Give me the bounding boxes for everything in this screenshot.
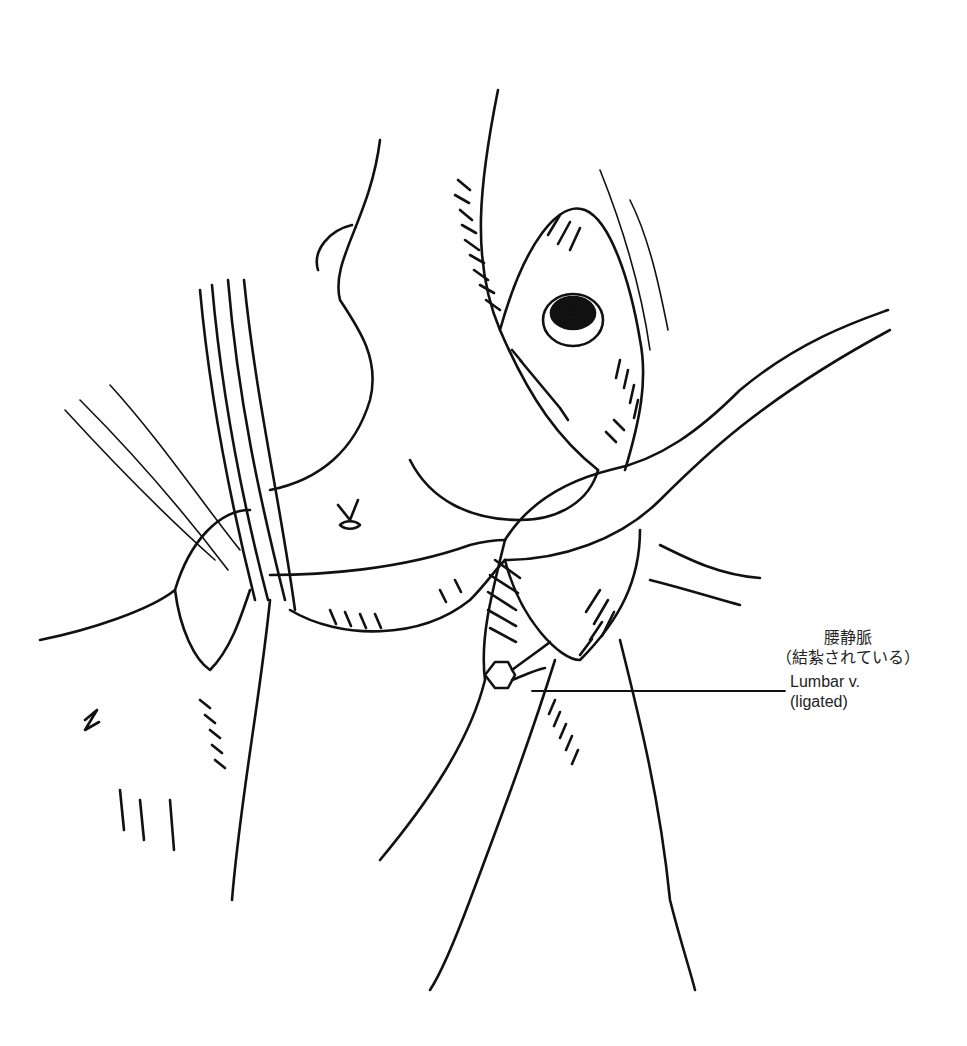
illustration-canvas: 腰静脈 （結紮されている） Lumbar v. (ligated) — [0, 0, 967, 1046]
tissue-hatching-left — [455, 180, 568, 420]
vessel-loop-7 — [110, 385, 240, 550]
label-ja-line-1: 腰静脈 — [824, 628, 872, 647]
label-lumbar-vein-english: Lumbar v. (ligated) — [790, 672, 860, 712]
ligated-lumbar-stump — [485, 662, 515, 688]
lumbar-vein-branch — [512, 642, 550, 670]
ligated-stump-small — [340, 521, 360, 529]
right-retractor-line-1 — [600, 170, 650, 350]
organ-lower-edge — [410, 460, 598, 520]
right-retractor-line-2 — [630, 200, 668, 330]
renal-vein-upper — [270, 540, 505, 575]
anatomical-drawing — [0, 0, 967, 1046]
ivc-lower-edge — [505, 330, 890, 560]
left-lower-edge — [232, 600, 270, 900]
vein-lower-outer — [620, 640, 695, 990]
left-structure-outline — [40, 510, 250, 640]
vein-lower-inner — [430, 660, 555, 990]
renal-vein-hatching — [330, 580, 461, 628]
label-en-line-2: (ligated) — [790, 692, 860, 712]
label-lumbar-vein-japanese: 腰静脈 （結紮されている） — [758, 628, 938, 668]
label-en-line-1: Lumbar v. — [790, 672, 860, 692]
right-branch-upper — [660, 545, 760, 578]
vein-lower-left — [380, 540, 505, 860]
lumbar-vein-branch-2 — [512, 668, 545, 680]
organ-outline-upper — [270, 140, 380, 490]
label-ja-line-2: （結紮されている） — [758, 648, 938, 668]
right-branch-lower — [650, 580, 740, 605]
small-stump-branch — [338, 500, 358, 520]
vessel-loop-6 — [80, 400, 228, 570]
right-tissue-edge — [481, 90, 598, 470]
vessel-loop-5 — [65, 410, 215, 560]
left-hatching — [85, 700, 225, 850]
left-structure-inner — [175, 590, 250, 670]
renal-vein-lower — [290, 560, 505, 631]
